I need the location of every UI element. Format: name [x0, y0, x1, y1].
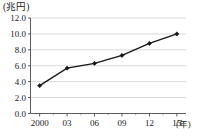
- data-series: [40, 34, 177, 86]
- data-point-marker: [120, 53, 124, 57]
- y-tick-label: 6.0: [15, 61, 27, 71]
- line-chart: (兆円) (年) 0.02.04.06.08.010.012.0 2000030…: [0, 0, 199, 140]
- x-tick-label: 15: [172, 118, 182, 128]
- y-tick-label: 12.0: [10, 13, 26, 23]
- y-tick-label: 8.0: [15, 45, 27, 55]
- data-point-marker: [147, 41, 151, 45]
- x-tick-label: 09: [117, 118, 127, 128]
- x-axis-ticks: 20000306091215: [31, 114, 182, 129]
- x-tick-label: 2000: [31, 118, 50, 128]
- y-axis-ticks: 0.02.04.06.08.010.012.0: [10, 13, 30, 119]
- y-tick-label: 0.0: [15, 109, 27, 119]
- x-tick-label: 03: [63, 118, 73, 128]
- series-line: [40, 34, 177, 86]
- y-tick-label: 4.0: [15, 77, 27, 87]
- data-point-marker: [175, 32, 179, 36]
- y-tick-label: 10.0: [10, 29, 26, 39]
- x-tick-label: 06: [90, 118, 100, 128]
- data-point-marker: [92, 61, 96, 65]
- x-tick-label: 12: [145, 118, 154, 128]
- gridlines: [31, 18, 187, 98]
- y-tick-label: 2.0: [15, 93, 27, 103]
- chart-plot-area: 0.02.04.06.08.010.012.0 20000306091215: [0, 0, 199, 140]
